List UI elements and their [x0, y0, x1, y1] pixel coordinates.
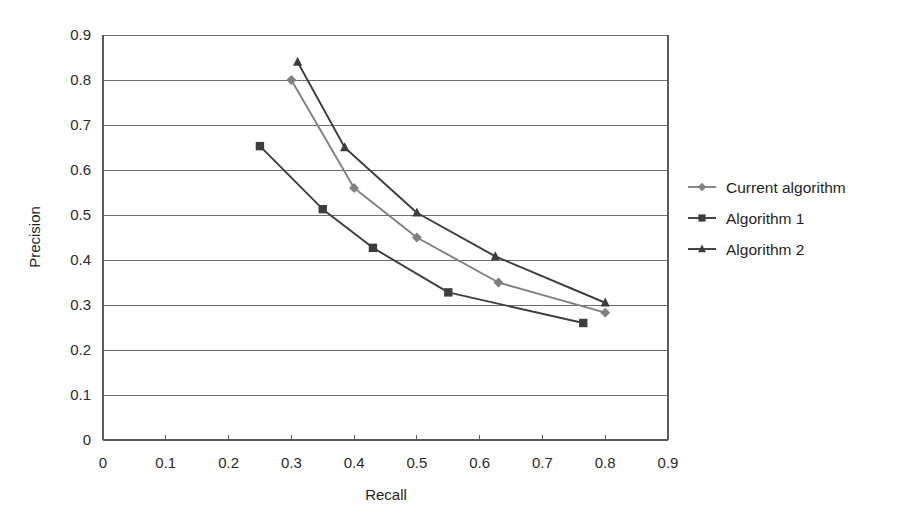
legend-item-label: Algorithm 2: [726, 241, 804, 258]
x-tick-label-0.7: 0.7: [532, 454, 553, 471]
x-tick-label-0.1: 0.1: [155, 454, 176, 471]
y-tick-label-0: 0: [83, 431, 91, 448]
y-tick-label-0.3: 0.3: [70, 296, 91, 313]
y-axis-title: Precision: [26, 206, 43, 268]
x-tick-label-0.4: 0.4: [344, 454, 365, 471]
x-tick-label-0.5: 0.5: [406, 454, 427, 471]
data-point-marker: [319, 205, 327, 213]
y-tick-label-0.7: 0.7: [70, 116, 91, 133]
square-marker: [698, 214, 705, 221]
x-tick-label-0.8: 0.8: [595, 454, 616, 471]
x-tick-label-0.3: 0.3: [281, 454, 302, 471]
legend-item-label: Current algorithm: [726, 179, 846, 196]
data-point-marker: [256, 142, 264, 150]
y-tick-label-0.1: 0.1: [70, 386, 91, 403]
x-tick-label-0: 0: [99, 454, 107, 471]
data-point-marker: [369, 244, 377, 252]
y-tick-label-0.2: 0.2: [70, 341, 91, 358]
x-tick-label-0.6: 0.6: [469, 454, 490, 471]
x-tick-label-0.9: 0.9: [658, 454, 679, 471]
precision-recall-chart: 00.10.20.30.40.50.60.70.80.9 00.10.20.30…: [0, 0, 899, 521]
data-point-marker: [444, 288, 452, 296]
y-tick-label-0.9: 0.9: [70, 26, 91, 43]
y-tick-label-0.6: 0.6: [70, 161, 91, 178]
x-axis-title: Recall: [365, 486, 407, 503]
y-tick-label-0.4: 0.4: [70, 251, 91, 268]
y-tick-label-0.5: 0.5: [70, 206, 91, 223]
x-tick-label-0.2: 0.2: [218, 454, 239, 471]
chart-container: 00.10.20.30.40.50.60.70.80.9 00.10.20.30…: [0, 0, 899, 521]
legend-item-label: Algorithm 1: [726, 210, 804, 227]
y-tick-label-0.8: 0.8: [70, 71, 91, 88]
data-point-marker: [579, 319, 587, 327]
